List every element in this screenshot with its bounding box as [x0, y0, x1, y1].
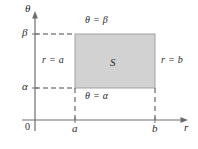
boundary-label-theta-beta: θ = β: [85, 15, 108, 25]
theta-axis-label: θ: [25, 3, 30, 14]
tick-label-beta: β: [22, 27, 27, 38]
boundary-label-theta-alpha: θ = α: [85, 91, 108, 101]
polar-rectangle-figure: θ r 0 β α a b θ = β θ = α r = a r = b S: [0, 0, 198, 149]
r-axis-label: r: [184, 122, 188, 133]
region-label-s: S: [110, 57, 116, 68]
origin-label: 0: [25, 122, 30, 132]
theta-axis-arrowhead: [32, 11, 38, 19]
boundary-label-r-a: r = a: [42, 55, 64, 65]
tick-label-alpha: α: [22, 81, 28, 92]
boundary-label-r-b: r = b: [161, 55, 183, 65]
tick-label-a: a: [72, 123, 78, 134]
tick-label-b: b: [152, 123, 158, 134]
